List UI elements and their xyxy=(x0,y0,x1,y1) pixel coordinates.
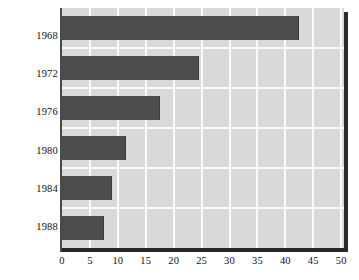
x-tick-label: 20 xyxy=(161,254,187,267)
x-tick-label: 45 xyxy=(300,254,326,267)
bar-1968 xyxy=(62,16,299,40)
gridline-horizontal xyxy=(62,87,344,89)
x-tick-label: 50 xyxy=(328,254,354,267)
gridline-horizontal xyxy=(62,207,344,209)
gridline-horizontal xyxy=(62,127,344,129)
bar-1976 xyxy=(62,96,160,120)
x-tick-label: 35 xyxy=(244,254,270,267)
bar-1980 xyxy=(62,136,126,160)
y-tick-label: 1968 xyxy=(14,30,58,41)
y-axis-line xyxy=(60,8,62,252)
gridline-horizontal xyxy=(62,47,344,49)
y-tick-label: 1980 xyxy=(14,145,58,156)
y-tick-label: 1976 xyxy=(14,106,58,117)
gridline-horizontal xyxy=(62,167,344,169)
bar-1972 xyxy=(62,56,199,80)
x-axis-line xyxy=(62,248,348,252)
bar-1988 xyxy=(62,216,104,240)
y-tick-label: 1988 xyxy=(14,221,58,232)
x-tick-label: 15 xyxy=(133,254,159,267)
y-tick-label: 1972 xyxy=(14,68,58,79)
x-tick-label: 25 xyxy=(189,254,215,267)
bar-chart: Election year 1968 1972 1976 1980 1984 1… xyxy=(0,0,359,280)
x-tick-label: 5 xyxy=(77,254,103,267)
bar-1984 xyxy=(62,176,112,200)
x-tick-label: 40 xyxy=(272,254,298,267)
plot-area xyxy=(62,8,344,248)
x-tick-label: 10 xyxy=(105,254,131,267)
x-tick-label: 30 xyxy=(217,254,243,267)
y-axis-tick-labels: 1968 1972 1976 1980 1984 1988 xyxy=(14,8,58,248)
y-tick-label: 1984 xyxy=(14,183,58,194)
x-axis-tick-labels: 05101520253035404550 xyxy=(0,254,359,270)
x-tick-label: 0 xyxy=(49,254,75,267)
